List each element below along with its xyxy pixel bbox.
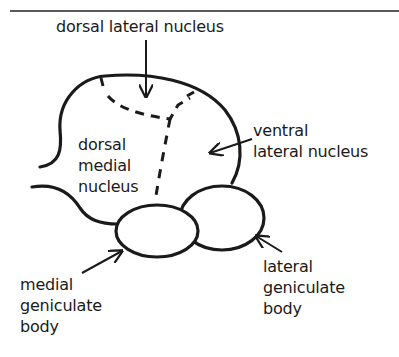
label-line: medial: [78, 156, 138, 175]
outline-tick-left: [101, 78, 103, 86]
label-line: ventral: [253, 121, 368, 140]
label-line: body: [20, 317, 102, 336]
outline-tick-right: [187, 92, 194, 96]
arrow-ventral-lateral: [210, 139, 252, 153]
label-ventral-lateral-nucleus: ventral lateral nucleus: [253, 121, 368, 161]
label-line: dorsal: [78, 135, 138, 154]
label-line: body: [263, 299, 345, 318]
dashed-boundary-medial: [156, 119, 170, 196]
arrow-lateral-geniculate: [256, 236, 282, 252]
label-medial-geniculate-body: medial geniculate body: [20, 275, 102, 336]
dashed-boundary-dorsal: [108, 96, 190, 119]
thalamus-outline: [40, 75, 240, 183]
label-line: lateral: [263, 257, 345, 276]
label-dorsal-medial-nucleus: dorsal medial nucleus: [78, 135, 138, 196]
label-dorsal-lateral-nucleus: dorsal lateral nucleus: [56, 17, 224, 36]
arrow-medial-geniculate: [82, 251, 122, 273]
label-line: geniculate: [20, 296, 102, 315]
label-lateral-geniculate-body: lateral geniculate body: [263, 257, 345, 318]
label-line: nucleus: [78, 177, 138, 196]
medial-geniculate-body-shape: [116, 205, 198, 257]
label-line: medial: [20, 275, 102, 294]
label-line: geniculate: [263, 278, 345, 297]
label-line: lateral nucleus: [253, 142, 368, 161]
